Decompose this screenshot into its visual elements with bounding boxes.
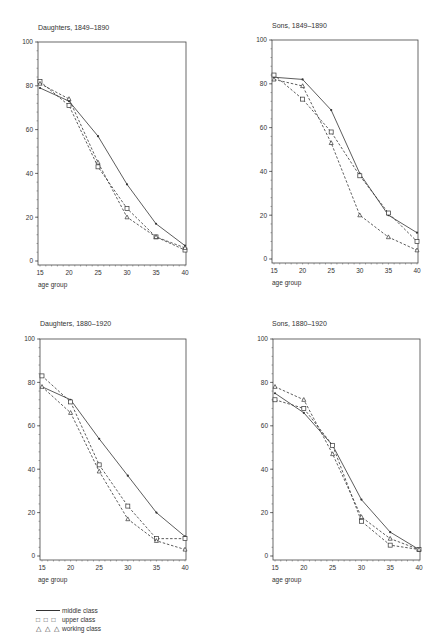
legend-label: middle class	[62, 607, 98, 614]
series-line-upper-class	[275, 400, 419, 550]
chart-plot-area: 020406080100152025303540	[0, 0, 444, 640]
series-line-middle-class	[275, 393, 419, 549]
svg-text:60: 60	[261, 422, 269, 429]
svg-text:30: 30	[358, 564, 366, 571]
x-axis-label: age group	[272, 576, 301, 583]
series-line-working-class	[275, 387, 419, 550]
svg-text:80: 80	[261, 379, 269, 386]
svg-text:25: 25	[329, 564, 337, 571]
svg-text:40: 40	[415, 564, 423, 571]
legend-item-upper-class: □ □ □ upper class	[36, 615, 101, 624]
legend-item-working-class: △ △ △ working class	[36, 624, 101, 633]
svg-text:40: 40	[261, 466, 269, 473]
svg-text:15: 15	[271, 564, 279, 571]
legend-label: working class	[62, 625, 101, 632]
solid-line-icon	[36, 610, 60, 611]
svg-text:20: 20	[300, 564, 308, 571]
square-marker-icon: □ □ □	[36, 616, 60, 623]
legend-item-middle-class: middle class	[36, 606, 101, 615]
legend-label: upper class	[62, 616, 95, 623]
svg-text:0: 0	[264, 552, 268, 559]
triangle-marker-icon: △ △ △	[36, 625, 60, 633]
svg-text:35: 35	[387, 564, 395, 571]
svg-text:100: 100	[257, 335, 268, 342]
svg-text:20: 20	[261, 509, 269, 516]
legend: middle class □ □ □ upper class △ △ △ wor…	[36, 606, 101, 633]
